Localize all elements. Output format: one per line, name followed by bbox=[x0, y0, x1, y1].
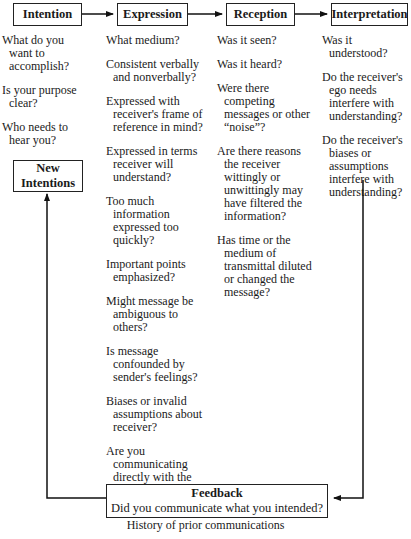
question: Were there competing messages or other “… bbox=[217, 82, 312, 134]
expression-box: Expression bbox=[117, 3, 188, 26]
question: Was it heard? bbox=[217, 58, 312, 71]
new-intentions-line1: New bbox=[36, 161, 60, 176]
new-intentions-line2: Intentions bbox=[21, 176, 75, 191]
intention-box: Intention bbox=[13, 3, 82, 26]
question: Do the receiver's ego needs interfere wi… bbox=[322, 71, 411, 123]
feedback-title: Feedback bbox=[191, 486, 242, 501]
expression-label: Expression bbox=[123, 7, 182, 22]
intention-questions: What do you want to accomplish? Is your … bbox=[2, 34, 88, 158]
intention-label: Intention bbox=[23, 7, 72, 22]
question: Is message confounded by sender's feelin… bbox=[106, 345, 206, 384]
new-intentions-box: New Intentions bbox=[13, 160, 83, 192]
question: Is your purpose clear? bbox=[2, 84, 88, 110]
reception-label: Reception bbox=[234, 7, 287, 22]
feedback-box: Feedback Did you communicate what you in… bbox=[106, 484, 328, 518]
question: Are there reasons the receiver wittingly… bbox=[217, 145, 312, 223]
question: Too much information expressed too quick… bbox=[106, 195, 206, 247]
reception-box: Reception bbox=[226, 3, 295, 26]
interpretation-questions: Was it understood? Do the receiver's ego… bbox=[322, 34, 411, 210]
question: Consistent verbally and nonverbally? bbox=[106, 58, 206, 84]
interpretation-label: Interpretation bbox=[331, 7, 407, 22]
reception-questions: Was it seen? Was it heard? Were there co… bbox=[217, 34, 312, 310]
question: What do you want to accomplish? bbox=[2, 34, 88, 73]
question: Do the receiver's biases or assumptions … bbox=[322, 134, 411, 199]
interpretation-box: Interpretation bbox=[331, 3, 408, 26]
question: Has time or the medium of transmittal di… bbox=[217, 234, 312, 299]
expression-questions: What medium? Consistent verbally and non… bbox=[106, 34, 206, 521]
question: Important points emphasized? bbox=[106, 258, 206, 284]
question: Expressed in terms receiver will underst… bbox=[106, 145, 206, 184]
question: Who needs to hear you? bbox=[2, 121, 88, 147]
feedback-question: Did you communicate what you intended? bbox=[111, 501, 323, 516]
question: Expressed with receiver's frame of refer… bbox=[106, 95, 206, 134]
question: What medium? bbox=[106, 34, 206, 47]
question: Was it seen? bbox=[217, 34, 312, 47]
caption: History of prior communications bbox=[0, 518, 411, 533]
question: Biases or invalid assumptions about rece… bbox=[106, 395, 206, 434]
question: Was it understood? bbox=[322, 34, 411, 60]
question: Might message be ambiguous to others? bbox=[106, 295, 206, 334]
